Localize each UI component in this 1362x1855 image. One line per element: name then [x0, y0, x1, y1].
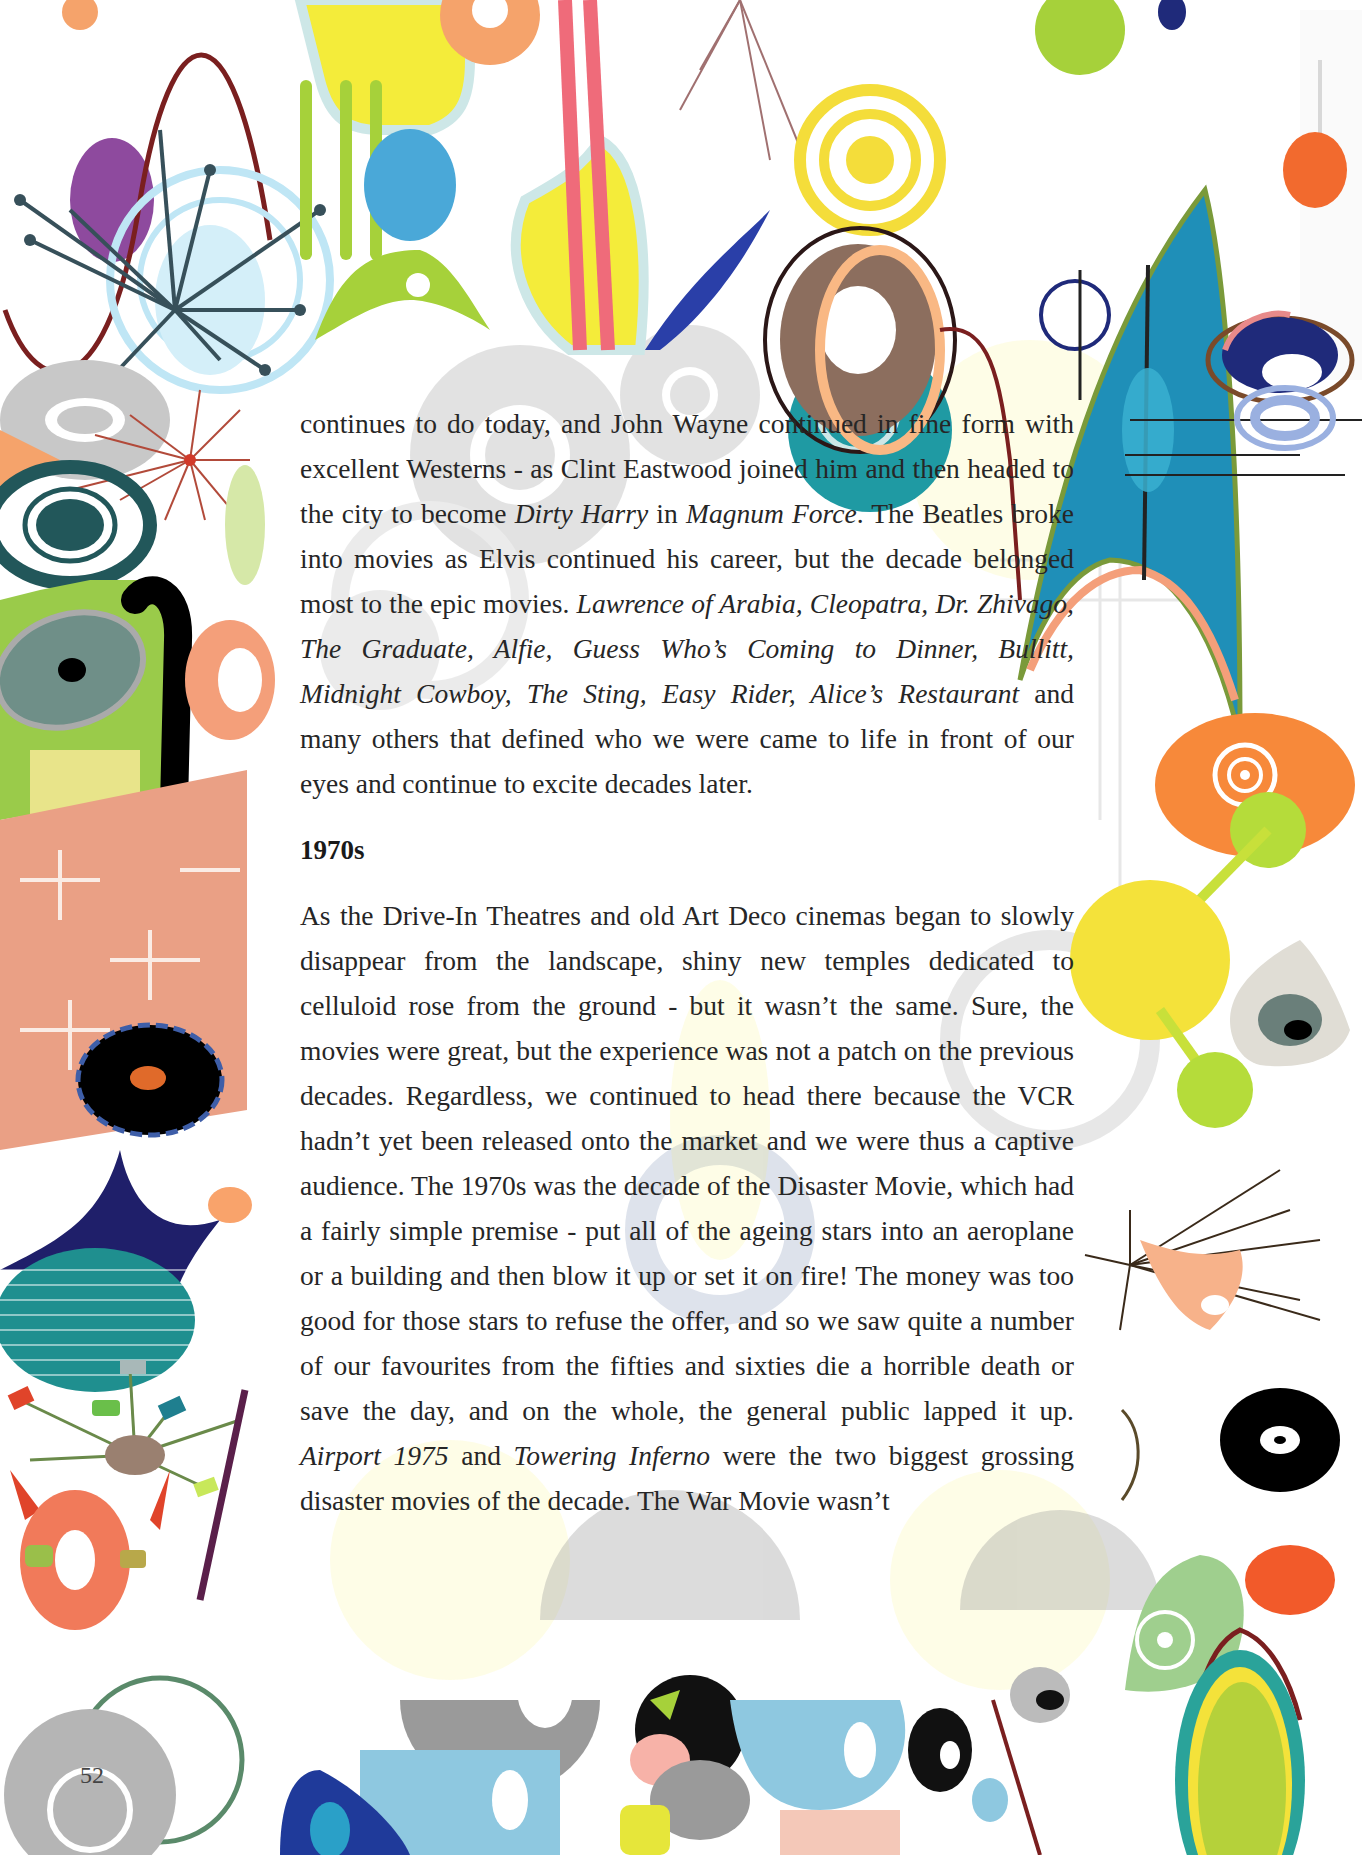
- film-title: Magnum Force: [686, 498, 857, 529]
- section-heading: 1970s: [300, 828, 1074, 873]
- film-title: Towering Inferno: [514, 1440, 710, 1471]
- bottom-decorations: [280, 1652, 1070, 1855]
- film-title: Dirty Harry: [515, 498, 649, 529]
- left-decorations: [0, 360, 275, 1855]
- page-number: 52: [80, 1762, 104, 1789]
- text-segment: As the Drive-In Theatres and old Art Dec…: [300, 900, 1074, 1426]
- paragraph-2: As the Drive-In Theatres and old Art Dec…: [300, 893, 1074, 1523]
- text-segment: in: [648, 498, 686, 529]
- article-body: continues to do today, and John Wayne co…: [300, 401, 1074, 1523]
- film-title: Airport 1975: [300, 1440, 449, 1471]
- small-starburst: [680, 0, 805, 160]
- paragraph-1: continues to do today, and John Wayne co…: [300, 401, 1074, 806]
- text-segment: and: [449, 1440, 514, 1471]
